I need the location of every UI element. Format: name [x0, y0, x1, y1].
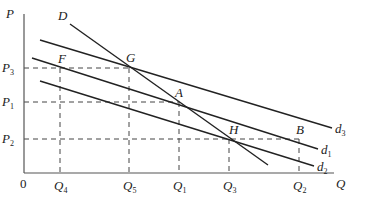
quantity-label-Q2: Q2: [293, 178, 306, 195]
price-label-P3: P3: [1, 60, 14, 77]
point-A: A: [174, 85, 183, 100]
price-level-labels: P3P1P2: [1, 60, 14, 148]
point-G: G: [126, 50, 136, 65]
curve-label-d1: d1: [321, 142, 332, 159]
quantity-label-Q1: Q1: [173, 178, 186, 195]
point-F: F: [57, 51, 67, 66]
y-axis-label: P: [5, 6, 14, 21]
quantity-label-Q5: Q5: [123, 178, 136, 195]
demand-curves: Dd3d1d2: [32, 8, 346, 176]
demand-curve-diagram: P Q 0 Dd3d1d2 P3P1P2 Q4Q5Q1Q3Q2 FGAHB: [0, 0, 367, 204]
quantity-label-Q4: Q4: [54, 178, 67, 195]
curve-d1: [32, 58, 318, 149]
point-B: B: [296, 122, 304, 137]
quantity-label-Q3: Q3: [223, 178, 236, 195]
origin-label: 0: [20, 176, 27, 191]
price-label-P2: P2: [1, 131, 14, 148]
point-H: H: [228, 122, 239, 137]
x-axis-label: Q: [336, 176, 346, 191]
curve-label-D: D: [57, 8, 68, 23]
quantity-level-labels: Q4Q5Q1Q3Q2: [54, 178, 306, 195]
curve-label-d2: d2: [317, 159, 328, 176]
curve-d3: [40, 40, 332, 128]
curve-D: [70, 24, 268, 165]
price-label-P1: P1: [1, 94, 14, 111]
curve-label-d3: d3: [335, 121, 346, 138]
diagram-canvas: P Q 0 Dd3d1d2 P3P1P2 Q4Q5Q1Q3Q2 FGAHB: [0, 0, 367, 204]
